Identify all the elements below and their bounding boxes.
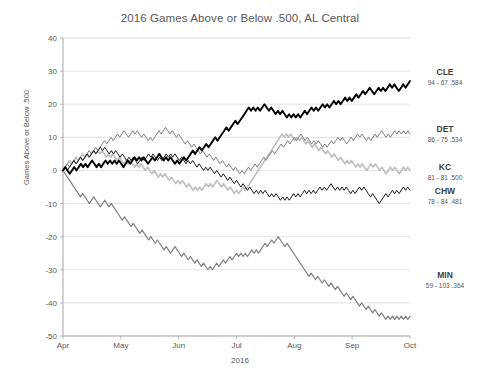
legend-team-name: CLE	[414, 67, 476, 78]
legend-item-kc[interactable]: KC81 - 81 .500	[414, 162, 476, 182]
x-axis-tick-label: Jul	[231, 341, 241, 350]
legend-item-cle[interactable]: CLE94 - 67 .584	[414, 67, 476, 87]
y-axis-tick-label: 0	[53, 166, 58, 175]
chart-container: 2016 Games Above or Below .500, AL Centr…	[0, 0, 480, 388]
y-axis-tick-label: -50	[45, 332, 57, 341]
legend-team-record: 78 - 84 .481	[414, 197, 476, 206]
legend-team-record: 59 - 103 .364	[414, 281, 476, 290]
series-line-min	[63, 170, 410, 319]
legend-team-name: MIN	[414, 270, 476, 281]
y-axis-tick-label: -10	[45, 200, 57, 209]
x-axis-title: 2016	[0, 356, 480, 365]
y-axis-tick-label: 20	[48, 100, 57, 109]
x-axis-tick-label: Apr	[57, 341, 70, 350]
x-axis-tick-label: Aug	[287, 341, 301, 350]
y-axis-tick-label: -30	[45, 266, 57, 275]
series-line-chw	[63, 147, 410, 203]
legend-team-name: CHW	[414, 186, 476, 197]
y-axis-tick-label: 40	[48, 34, 57, 43]
x-axis-tick-label: May	[113, 341, 128, 350]
x-axis-tick-label: Jun	[172, 341, 185, 350]
series-line-det	[63, 127, 410, 173]
y-axis-tick-label: -40	[45, 299, 57, 308]
y-axis-tick-label: 30	[48, 67, 57, 76]
series-line-cle	[63, 81, 410, 174]
legend-team-record: 94 - 67 .584	[414, 78, 476, 87]
legend-item-min[interactable]: MIN59 - 103 .364	[414, 270, 476, 290]
x-axis-tick-label: Sep	[345, 341, 360, 350]
legend-item-det[interactable]: DET86 - 75 .534	[414, 124, 476, 144]
x-axis-tick-label: Oct	[404, 341, 417, 350]
legend-item-chw[interactable]: CHW78 - 84 .481	[414, 186, 476, 206]
y-axis-tick-label: -20	[45, 233, 57, 242]
y-axis-tick-label: 10	[48, 133, 57, 142]
legend-team-record: 86 - 75 .534	[414, 135, 476, 144]
legend-team-name: DET	[414, 124, 476, 135]
legend-team-name: KC	[414, 162, 476, 173]
series-line-kc	[63, 134, 410, 194]
plot-area: 403020100-10-20-30-40-50AprMayJunJulAugS…	[0, 0, 480, 388]
legend-team-record: 81 - 81 .500	[414, 173, 476, 182]
